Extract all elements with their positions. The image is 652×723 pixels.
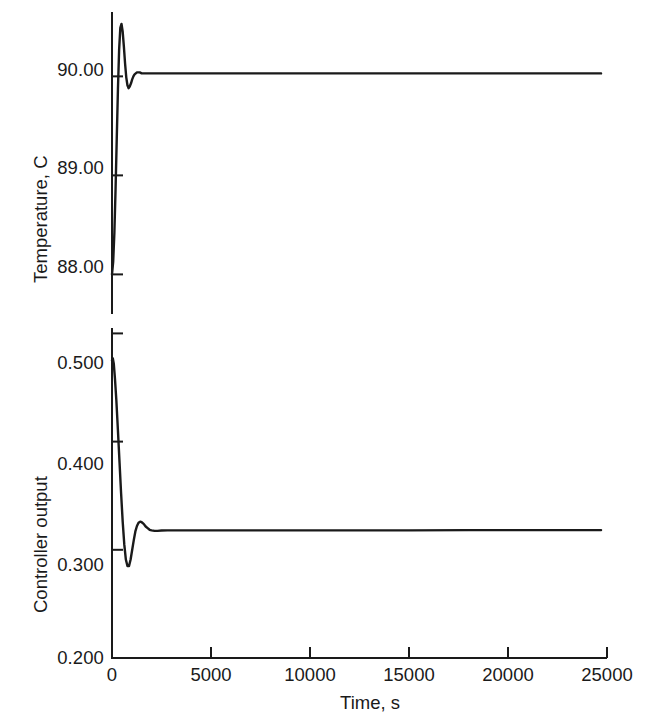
xtick-label-20000: 20000 <box>482 664 533 686</box>
curves-layer <box>112 24 601 566</box>
xtick-label-25000: 25000 <box>581 664 632 686</box>
ytick-label-temperature-90: 90.00 <box>38 59 104 81</box>
xtick-label-0: 0 <box>107 664 117 686</box>
yaxis-title-temperature: Temperature, C <box>30 156 52 284</box>
series-line-controller-output-0 <box>112 358 601 566</box>
series-line-temperature-0 <box>112 24 601 275</box>
xaxis-title: Time, s <box>340 692 400 714</box>
ytick-label-controller-output-0400: 0.400 <box>34 453 104 475</box>
xtick-label-5000: 5000 <box>190 664 231 686</box>
yaxis-title-controller-output: Controller output <box>30 476 52 613</box>
chart-figure: 90.00 89.00 88.00 0.500 0.400 0.300 0.20… <box>0 0 652 723</box>
xtick-label-10000: 10000 <box>284 664 335 686</box>
xtick-label-15000: 15000 <box>383 664 434 686</box>
axes-layer <box>111 12 607 658</box>
ytick-label-controller-output-0200: 0.200 <box>34 647 104 669</box>
ytick-label-controller-output-0500: 0.500 <box>34 352 104 374</box>
